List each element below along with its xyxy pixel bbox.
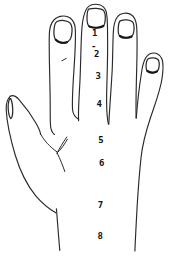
scale-label-2: 2 xyxy=(94,49,99,59)
thumb-inner-edge-outline xyxy=(10,96,40,135)
wrist-edge-line xyxy=(56,209,59,251)
scale-label-6: 6 xyxy=(99,158,104,168)
middle-finger-outline xyxy=(78,4,108,124)
thumb-web-crease xyxy=(41,134,57,152)
scale-label-8: 8 xyxy=(98,231,103,241)
ring-finger-outline xyxy=(109,13,137,124)
scale-label-4: 4 xyxy=(96,99,102,109)
index-base-crease xyxy=(57,153,65,171)
thumb-nail-icon xyxy=(8,99,13,119)
little-finger-and-hand-edge-outline xyxy=(135,53,163,251)
scale-label-1: 1 xyxy=(92,28,97,38)
thumb-outer-edge-outline xyxy=(6,96,56,213)
hand-line-drawing: 1 - 2 3 4 5 6 7 8 xyxy=(0,0,171,262)
middle-fingernail-icon xyxy=(87,8,105,28)
little-fingernail-shading xyxy=(147,71,157,73)
index-fingernail-shading xyxy=(56,40,67,43)
thumb-web-fold xyxy=(57,137,67,153)
index-finger-mark xyxy=(62,58,66,60)
scale-label-7: 7 xyxy=(98,200,103,210)
scale-label-5: 5 xyxy=(98,135,103,145)
ring-fingernail-shading xyxy=(120,36,132,38)
scale-label-3: 3 xyxy=(95,71,100,81)
hand-diagram-figure: 1 - 2 3 4 5 6 7 8 xyxy=(0,0,171,262)
